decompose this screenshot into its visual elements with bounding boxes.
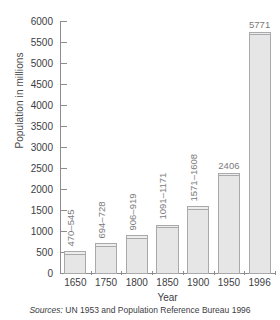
x-tick-label: 1800	[121, 278, 152, 288]
bar: 5771	[249, 32, 271, 274]
y-tick-label: 3000	[31, 143, 53, 153]
y-tick	[60, 84, 67, 85]
x-tick	[91, 271, 92, 275]
y-axis-line	[60, 22, 61, 274]
bar: 470–545	[64, 251, 86, 274]
y-tick-label: 0	[47, 269, 53, 279]
population-bar-chart: Population in millions 05001000150020002…	[0, 0, 280, 320]
y-tick-label: 5000	[31, 59, 53, 69]
bar: 1571–1608	[187, 206, 209, 274]
bar-range-band	[156, 225, 178, 229]
y-tick-label: 5500	[31, 38, 53, 48]
y-tick	[60, 105, 67, 106]
x-tick-label: 1900	[183, 278, 214, 288]
y-tick-label: 1000	[31, 227, 53, 237]
bar-value-label: 470–545	[66, 209, 76, 246]
x-tick	[214, 271, 215, 275]
x-axis-title: Year	[60, 292, 275, 303]
y-tick-label: 1500	[31, 206, 53, 216]
x-tick-label: 1750	[91, 278, 122, 288]
x-tick	[152, 271, 153, 275]
bar-value-label: 1091–1171	[158, 173, 168, 220]
x-tick	[244, 271, 245, 275]
x-tick-label: 1850	[152, 278, 183, 288]
y-tick-label: 6000	[31, 17, 53, 27]
y-tick	[60, 21, 67, 22]
bar: 906–919	[126, 235, 148, 274]
bar-range-band	[126, 235, 148, 239]
bar-range-band	[249, 32, 271, 36]
source-text: UN 1953 and Population Reference Bureau …	[65, 305, 250, 315]
bar-value-label: 906–919	[127, 193, 137, 230]
bar-value-label: 1571–1608	[189, 154, 199, 202]
x-tick-label: 1950	[214, 278, 245, 288]
x-tick-label: 1650	[60, 278, 91, 288]
y-tick	[60, 189, 67, 190]
x-tick	[121, 271, 122, 275]
bar: 1091–1171	[156, 225, 178, 274]
y-tick-label: 3500	[31, 122, 53, 132]
y-tick	[60, 42, 67, 43]
y-tick	[60, 63, 67, 64]
y-tick-label: 2000	[31, 185, 53, 195]
y-tick	[60, 168, 67, 169]
x-tick-label: 1996	[244, 278, 275, 288]
y-tick	[60, 147, 67, 148]
y-tick	[60, 126, 67, 127]
bar-range-band	[218, 173, 240, 177]
y-tick-label: 500	[36, 248, 53, 258]
y-tick-label: 2500	[31, 164, 53, 174]
bar: 2406	[218, 173, 240, 274]
x-tick	[183, 271, 184, 275]
bar-range-band	[64, 251, 86, 255]
y-tick-label: 4500	[31, 80, 53, 90]
plot-area: 0500100015002000250030003500400045005000…	[60, 22, 275, 274]
bar: 694–728	[95, 243, 117, 274]
bar-value-label: 694–728	[97, 201, 107, 238]
bar-value-label: 5771	[249, 20, 270, 30]
y-tick-label: 4000	[31, 101, 53, 111]
source-note: Sources: UN 1953 and Population Referenc…	[0, 305, 280, 315]
y-axis-title: Population in millions	[14, 16, 25, 186]
source-label: Sources:	[29, 305, 63, 315]
bar-range-band	[187, 206, 209, 210]
bar-range-band	[95, 243, 117, 247]
x-tick	[275, 271, 276, 275]
bar-value-label: 2406	[218, 161, 239, 171]
